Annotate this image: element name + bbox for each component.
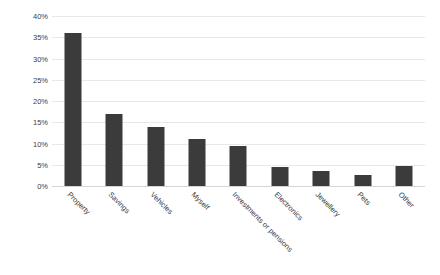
y-axis-tick-label: 15% (18, 118, 48, 127)
x-axis-tick-label: Other (397, 190, 417, 210)
x-label-slot: Property (52, 188, 93, 275)
x-axis-tick-label: Jewellery (314, 190, 342, 218)
x-axis-tick-label: Myself (190, 190, 212, 212)
bar-slot (259, 16, 300, 186)
bar[interactable] (354, 175, 371, 186)
x-label-slot: Investments or pensions (218, 188, 259, 275)
y-axis-tick-label: 30% (18, 54, 48, 63)
bar[interactable] (106, 114, 123, 186)
bar[interactable] (230, 146, 247, 186)
y-axis-tick-label: 25% (18, 75, 48, 84)
y-axis-tick-label: 40% (18, 12, 48, 21)
x-label-slot: Electronics (259, 188, 300, 275)
y-axis-tick-label: 5% (18, 160, 48, 169)
bar[interactable] (313, 171, 330, 186)
bar-slot (52, 16, 93, 186)
x-axis-tick-label: Property (65, 190, 91, 216)
bar-slot (384, 16, 425, 186)
plot-area (52, 16, 425, 186)
x-axis-tick-label: Vehicles (148, 190, 174, 216)
bar[interactable] (147, 127, 164, 187)
bar-slot (135, 16, 176, 186)
y-axis-tick-label: 0% (18, 182, 48, 191)
bar-slot (342, 16, 383, 186)
y-axis-tick-label: 35% (18, 33, 48, 42)
y-axis-tick-label: 10% (18, 139, 48, 148)
bars-layer (52, 16, 425, 186)
x-axis-tick-label: Pets (355, 190, 372, 207)
axis-baseline (52, 186, 425, 187)
x-label-slot: Jewellery (301, 188, 342, 275)
x-axis-tick-label: Savings (107, 190, 132, 215)
y-axis-tick-labels: 40%35%30%25%20%15%10%5%0% (18, 16, 48, 186)
bar-slot (176, 16, 217, 186)
x-label-slot: Vehicles (135, 188, 176, 275)
bar[interactable] (271, 167, 288, 186)
bar[interactable] (64, 33, 81, 186)
x-label-slot: Myself (176, 188, 217, 275)
bar-slot (93, 16, 134, 186)
bar[interactable] (396, 166, 413, 186)
x-axis-tick-labels: PropertySavingsVehiclesMyselfInvestments… (52, 188, 425, 275)
bar-slot (301, 16, 342, 186)
x-label-slot: Other (384, 188, 425, 275)
x-label-slot: Pets (342, 188, 383, 275)
bar-chart: Percentage of respondents 40%35%30%25%20… (0, 0, 440, 275)
bar-slot (218, 16, 259, 186)
x-label-slot: Savings (93, 188, 134, 275)
y-axis-tick-label: 20% (18, 97, 48, 106)
bar[interactable] (189, 139, 206, 186)
